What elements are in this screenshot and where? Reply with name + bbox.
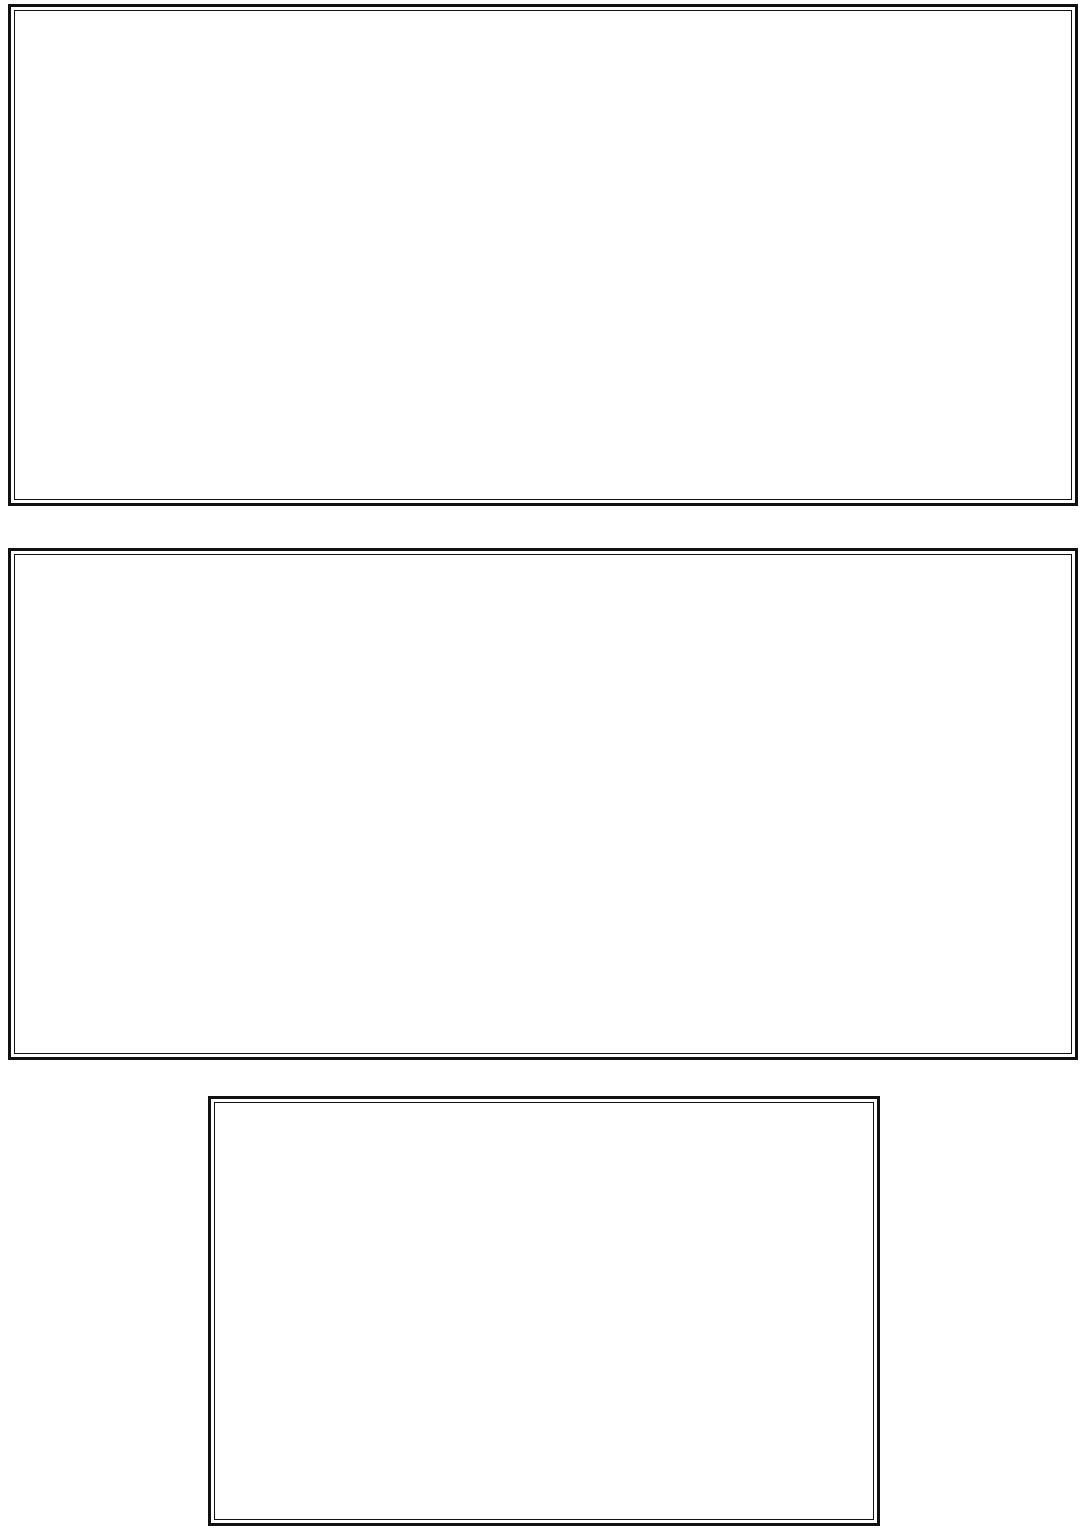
panel-row-top [8, 4, 1078, 506]
chart-oxygen [543, 11, 1071, 499]
chart-carbon [15, 555, 543, 1053]
chart-cell-hydrogen [543, 555, 1071, 1053]
chart-volatile-matter [15, 11, 543, 499]
chart-gross-calorific-value [215, 1103, 873, 1519]
chart-cell-volatile-matter [15, 11, 543, 499]
chart-cell-carbon [15, 555, 543, 1053]
panel-outer-border [8, 4, 1078, 506]
chart-cell-gross-calorific-value [215, 1103, 873, 1519]
panel-outer-border [8, 548, 1078, 1060]
panel-row-bottom [208, 1096, 880, 1526]
chart-cell-oxygen [543, 11, 1071, 499]
panel-inner-border [214, 1102, 874, 1520]
panel-row-middle [8, 548, 1078, 1060]
panel-inner-border [14, 10, 1072, 500]
panel-outer-border [208, 1096, 880, 1526]
panel-inner-border [14, 554, 1072, 1054]
chart-hydrogen [543, 555, 1071, 1053]
